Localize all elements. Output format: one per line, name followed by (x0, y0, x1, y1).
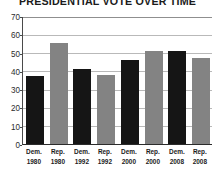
y-tick-label-10: 10 (3, 122, 20, 132)
x-label-rep-1980: Rep.1980 (47, 147, 69, 166)
x-label-party: Dem. (165, 147, 187, 157)
x-label-year: 1992 (70, 157, 92, 167)
chart-figure: PRESIDENTIAL VOTE OVER TIME 010203040506… (0, 0, 215, 172)
y-tick-mark-0 (20, 145, 22, 146)
gridline-70 (23, 17, 212, 18)
bar-dem-1980 (26, 76, 44, 144)
plot-area (22, 17, 212, 145)
x-label-party: Dem. (118, 147, 140, 157)
x-label-party: Dem. (23, 147, 45, 157)
y-tick-label-0: 0 (3, 140, 20, 150)
x-label-dem-1980: Dem.1980 (23, 147, 45, 166)
y-tick-label-40: 40 (3, 67, 20, 77)
y-tick-label-30: 30 (3, 85, 20, 95)
bar-rep-1992 (97, 75, 115, 144)
x-label-dem-2008: Dem.2008 (165, 147, 187, 166)
x-label-party: Rep. (47, 147, 69, 157)
x-label-rep-2008: Rep.2008 (189, 147, 211, 166)
x-label-rep-2000: Rep.2000 (142, 147, 164, 166)
x-label-year: 1980 (23, 157, 45, 167)
bar-dem-2000 (121, 60, 139, 144)
x-label-party: Rep. (94, 147, 116, 157)
y-tick-label-20: 20 (3, 103, 20, 113)
x-label-year: 2008 (165, 157, 187, 167)
x-label-dem-1992: Dem.1992 (70, 147, 92, 166)
x-label-party: Rep. (189, 147, 211, 157)
x-label-year: 2000 (142, 157, 164, 167)
x-label-party: Dem. (70, 147, 92, 157)
bar-dem-1992 (73, 69, 91, 144)
gridline-60 (23, 35, 212, 36)
x-label-dem-2000: Dem.2000 (118, 147, 140, 166)
x-label-year: 1980 (47, 157, 69, 167)
bar-rep-2008 (192, 58, 210, 144)
x-label-year: 2008 (189, 157, 211, 167)
y-tick-label-50: 50 (3, 49, 20, 59)
chart-title: PRESIDENTIAL VOTE OVER TIME (8, 0, 208, 7)
x-axis: Dem.1980Rep.1980Dem.1992Rep.1992Dem.2000… (22, 147, 212, 172)
bar-dem-2008 (168, 51, 186, 144)
x-label-rep-1992: Rep.1992 (94, 147, 116, 166)
x-label-party: Rep. (142, 147, 164, 157)
x-label-year: 1992 (94, 157, 116, 167)
bar-rep-2000 (145, 51, 163, 144)
y-tick-label-60: 60 (3, 30, 20, 40)
x-label-year: 2000 (118, 157, 140, 167)
y-axis: 010203040506070 (0, 17, 20, 145)
y-tick-label-70: 70 (3, 12, 20, 22)
bar-rep-1980 (50, 43, 68, 144)
